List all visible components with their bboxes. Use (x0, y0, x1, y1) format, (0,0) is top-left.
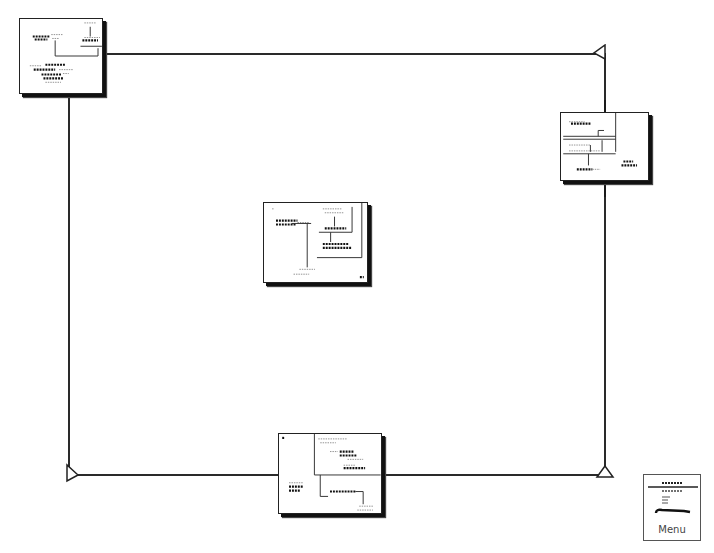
frame-top-edge (103, 53, 606, 55)
page-content-preview (264, 203, 367, 282)
corner-triangle-bottom-right-icon[interactable] (595, 464, 615, 482)
frame-left-edge (68, 95, 70, 476)
page-thumbnail-bottom[interactable] (278, 433, 382, 514)
page-content-preview (279, 434, 381, 513)
connector-right-bottom (604, 183, 606, 197)
menu-label: Menu (644, 524, 700, 535)
corner-triangle-bottom-left-icon[interactable] (62, 463, 82, 483)
corner-triangle-top-right-icon[interactable] (590, 44, 610, 64)
connector-right-top (604, 100, 606, 112)
menu-preview-icon (644, 475, 702, 525)
page-content-preview (20, 19, 102, 93)
page-thumbnail-top-left[interactable] (19, 18, 103, 94)
menu-button[interactable]: Menu (643, 474, 701, 541)
page-content-preview (561, 113, 648, 180)
page-thumbnail-right[interactable] (560, 112, 649, 181)
page-thumbnail-center[interactable] (263, 202, 368, 283)
